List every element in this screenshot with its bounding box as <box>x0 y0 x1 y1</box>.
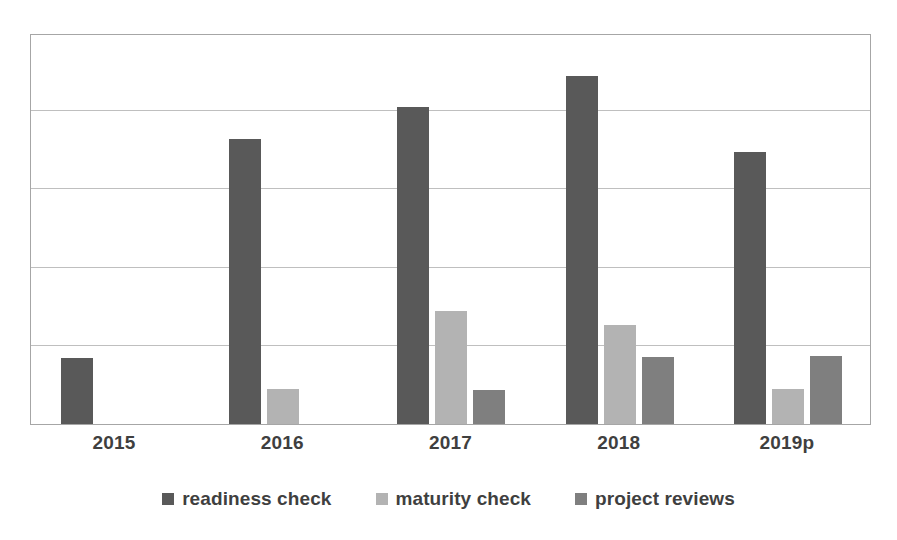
bar-group-2018 <box>536 35 704 424</box>
bar-maturity-check-2019p[interactable] <box>772 389 804 424</box>
plot-area <box>30 34 871 425</box>
bar-maturity-check-2017[interactable] <box>435 311 467 424</box>
bar-readiness-check-2015[interactable] <box>61 358 93 424</box>
bar-group-2017 <box>367 35 535 424</box>
bar-group-2015 <box>31 35 199 424</box>
bar-readiness-check-2018[interactable] <box>566 76 598 424</box>
legend-label: project reviews <box>595 488 735 510</box>
bar-group-2019p <box>704 35 872 424</box>
x-axis: 20152016201720182019p <box>30 432 871 464</box>
x-tick-label-2018: 2018 <box>535 432 703 454</box>
legend-item-readiness-check[interactable]: readiness check <box>162 488 331 510</box>
bar-project-reviews-2017[interactable] <box>473 390 505 424</box>
legend-swatch-readiness-check <box>162 493 174 505</box>
gridline <box>31 32 870 33</box>
chart-legend: readiness checkmaturity checkproject rev… <box>0 488 897 510</box>
x-tick-label-2016: 2016 <box>198 432 366 454</box>
bar-readiness-check-2016[interactable] <box>229 139 261 424</box>
bar-maturity-check-2016[interactable] <box>267 389 299 424</box>
legend-item-maturity-check[interactable]: maturity check <box>376 488 532 510</box>
legend-label: maturity check <box>396 488 532 510</box>
bar-chart: 20152016201720182019p readiness checkmat… <box>0 0 897 540</box>
bar-group-2016 <box>199 35 367 424</box>
x-tick-label-2015: 2015 <box>30 432 198 454</box>
bar-project-reviews-2018[interactable] <box>642 357 674 424</box>
x-tick-label-2017: 2017 <box>366 432 534 454</box>
bar-project-reviews-2019p[interactable] <box>810 356 842 424</box>
legend-item-project-reviews[interactable]: project reviews <box>575 488 735 510</box>
bar-readiness-check-2017[interactable] <box>397 107 429 424</box>
bar-readiness-check-2019p[interactable] <box>734 152 766 424</box>
x-tick-label-2019p: 2019p <box>703 432 871 454</box>
legend-swatch-project-reviews <box>575 493 587 505</box>
legend-label: readiness check <box>182 488 331 510</box>
bar-maturity-check-2018[interactable] <box>604 325 636 424</box>
legend-swatch-maturity-check <box>376 493 388 505</box>
